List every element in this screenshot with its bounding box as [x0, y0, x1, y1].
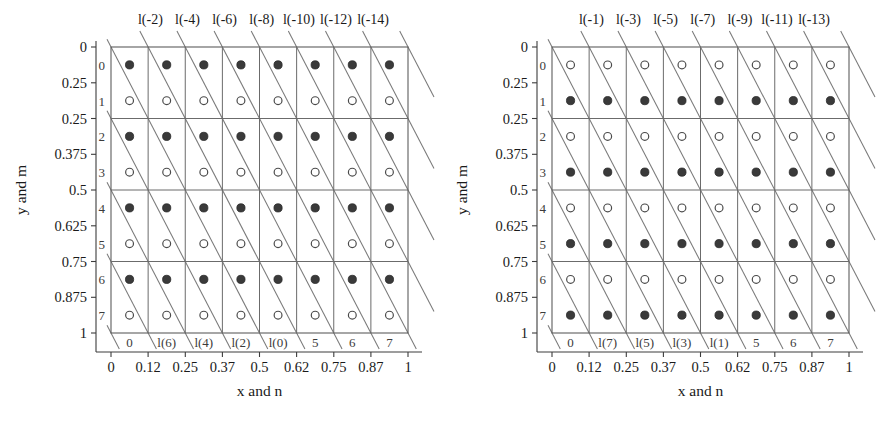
marker-filled	[385, 275, 393, 283]
marker-open	[163, 97, 171, 105]
marker-filled	[311, 275, 319, 283]
marker-filled	[752, 97, 760, 105]
marker-open	[311, 240, 319, 248]
x-axis-tick-label: 1	[845, 359, 852, 375]
marker-open	[237, 311, 245, 319]
marker-open	[237, 97, 245, 105]
left-panel: 012345670l(6)l(4)l(2)l(0)567l(-2)l(-4)l(…	[0, 0, 441, 428]
marker-open	[348, 311, 356, 319]
marker-open	[567, 204, 575, 212]
x-axis-tick-label: 0.5	[250, 359, 268, 375]
marker-filled	[348, 132, 356, 140]
top-callout-label: l(-6)	[212, 12, 237, 28]
figure-container: 012345670l(6)l(4)l(2)l(0)567l(-2)l(-4)l(…	[0, 0, 882, 428]
y-axis-tick-label: 0	[521, 39, 528, 55]
x-axis-tick-label: 0	[107, 359, 114, 375]
marker-open	[348, 240, 356, 248]
y-axis-tick-label: 0.625	[495, 218, 528, 234]
marker-filled	[752, 311, 760, 319]
marker-filled	[715, 168, 723, 176]
bottom-inner-label: l(4)	[194, 335, 213, 350]
marker-open	[752, 204, 760, 212]
marker-filled	[566, 240, 574, 248]
marker-filled	[678, 240, 686, 248]
y-axis-tick-label: 0	[80, 39, 87, 55]
top-callout-label: l(-8)	[249, 12, 274, 28]
x-axis-tick-label: 0.62	[284, 359, 309, 375]
top-callout-label: l(-10)	[283, 12, 315, 28]
row-index-label: 0	[540, 58, 547, 73]
marker-filled	[163, 275, 171, 283]
y-axis-tick-label: 1	[521, 325, 528, 341]
top-callout-label: l(-7)	[690, 12, 715, 28]
row-index-label: 7	[540, 308, 547, 323]
marker-filled	[125, 61, 133, 69]
marker-filled	[385, 61, 393, 69]
row-index-label: 6	[99, 272, 106, 287]
x-axis-tick-label: 0.12	[135, 359, 160, 375]
marker-open	[715, 132, 723, 140]
top-callout-label: l(-5)	[653, 12, 678, 28]
marker-open	[789, 61, 797, 69]
row-index-label: 5	[99, 237, 106, 252]
marker-open	[567, 132, 575, 140]
diagonal-line	[107, 182, 194, 349]
marker-filled	[237, 204, 245, 212]
row-index-label: 2	[99, 129, 106, 144]
bottom-inner-label: 0	[126, 335, 133, 350]
diagonal-line	[841, 31, 875, 97]
x-axis-tick-label: 0.62	[725, 359, 750, 375]
marker-filled	[237, 61, 245, 69]
marker-filled	[789, 240, 797, 248]
x-axis-tick-label: 0	[548, 359, 555, 375]
diagonal-line	[107, 325, 119, 349]
marker-filled	[311, 204, 319, 212]
marker-filled	[163, 61, 171, 69]
marker-open	[386, 311, 394, 319]
marker-open	[348, 97, 356, 105]
marker-open	[715, 204, 723, 212]
marker-filled	[385, 204, 393, 212]
marker-filled	[348, 61, 356, 69]
marker-open	[752, 61, 760, 69]
marker-filled	[826, 311, 834, 319]
x-axis-tick-label: 1	[404, 359, 411, 375]
row-index-label: 1	[99, 94, 106, 109]
diagonal-line	[548, 182, 635, 349]
diagonal-line	[766, 31, 875, 240]
marker-filled	[163, 204, 171, 212]
diagonal-line	[548, 39, 709, 349]
marker-open	[752, 132, 760, 140]
marker-open	[789, 204, 797, 212]
marker-open	[200, 240, 208, 248]
diagonal-line	[363, 31, 434, 169]
x-axis-tick-label: 0.25	[173, 359, 198, 375]
marker-filled	[200, 132, 208, 140]
marker-open	[641, 132, 649, 140]
marker-filled	[678, 311, 686, 319]
marker-open	[789, 132, 797, 140]
marker-open	[827, 61, 835, 69]
bottom-inner-label: 7	[386, 335, 393, 350]
top-callout-label: l(-1)	[579, 12, 604, 28]
marker-open	[311, 311, 319, 319]
marker-open	[126, 240, 134, 248]
marker-filled	[200, 275, 208, 283]
row-index-label: 4	[540, 201, 547, 216]
marker-open	[274, 240, 282, 248]
y-axis-tick-label: 0.25	[62, 111, 87, 127]
row-index-label: 4	[99, 201, 106, 216]
x-axis-tick-label: 0.12	[576, 359, 601, 375]
y-axis-tick-label: 0.5	[69, 182, 87, 198]
marker-open	[200, 311, 208, 319]
row-index-label: 1	[540, 94, 547, 109]
marker-open	[604, 275, 612, 283]
diagonal-line	[288, 31, 434, 312]
x-axis-title: x and n	[237, 382, 283, 399]
x-axis-tick-label: 0.87	[358, 359, 383, 375]
y-axis-tick-label: 0.875	[54, 289, 87, 305]
left-panel-svg: 012345670l(6)l(4)l(2)l(0)567l(-2)l(-4)l(…	[0, 0, 441, 428]
top-callout-label: l(-3)	[616, 12, 641, 28]
y-axis-title: y and m	[12, 165, 29, 215]
marker-filled	[566, 311, 574, 319]
